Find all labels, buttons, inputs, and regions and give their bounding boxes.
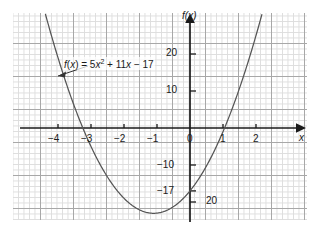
y-tick-label--10: −10 <box>157 160 174 170</box>
y-tick-label--20: 20 <box>206 196 217 206</box>
x-axis-title: x <box>299 133 304 143</box>
x-tick-label-2: 2 <box>253 134 259 144</box>
x-tick-label--2: −2 <box>114 134 125 144</box>
x-tick-label--1: −1 <box>147 134 158 144</box>
plot-area <box>0 0 321 233</box>
parabola-curve <box>45 14 261 213</box>
function-callout-label: f(x) = 5x2 + 11x − 17 <box>63 57 155 70</box>
x-tick-label--3: −3 <box>81 134 92 144</box>
y-tick-label--17: −17 <box>157 186 174 196</box>
y-axis-title: f(x) <box>182 11 196 21</box>
graph-figure: f(x) x f(x) = 5x2 + 11x − 17 −4−3−2−1012… <box>0 0 321 233</box>
x-tick-label-0: 0 <box>187 134 193 144</box>
y-tick-label-10: 10 <box>166 85 177 95</box>
x-tick-label--4: −4 <box>48 134 59 144</box>
x-tick-label-1: 1 <box>220 134 226 144</box>
curve-layer <box>45 14 261 213</box>
y-tick-label-20: 20 <box>166 48 177 58</box>
